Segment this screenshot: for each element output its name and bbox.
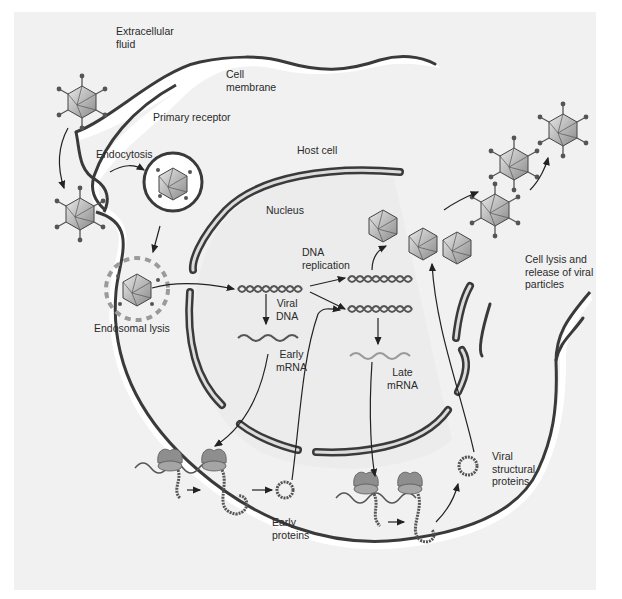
- label-endocytosis: Endocytosis: [96, 148, 153, 161]
- virus-assembly-3: [443, 232, 471, 264]
- virus-released-3: [538, 102, 589, 159]
- label-cell-lysis: Cell lysis and release of viral particle…: [525, 253, 593, 291]
- label-host-cell: Host cell: [297, 144, 337, 157]
- endosome: [144, 153, 202, 211]
- label-dna-replication: DNA replication: [302, 246, 350, 271]
- label-endosomal-lysis: Endosomal lysis: [94, 322, 170, 335]
- virus-assembly-2: [409, 228, 437, 260]
- label-cell-membrane: Cell membrane: [226, 68, 276, 93]
- nucleus: [189, 170, 470, 468]
- label-early-mrna: Early mRNA: [276, 348, 307, 373]
- label-early-proteins: Early proteins: [272, 516, 309, 541]
- label-viral-dna: Viral DNA: [276, 297, 298, 322]
- label-viral-structural-proteins: Viral structural proteins: [492, 450, 535, 488]
- label-nucleus: Nucleus: [266, 204, 304, 217]
- diagram-canvas: [0, 0, 622, 599]
- label-extracellular-fluid: Extracellular fluid: [116, 25, 174, 50]
- label-primary-receptor: Primary receptor: [153, 111, 231, 124]
- label-late-mrna: Late mRNA: [387, 366, 418, 391]
